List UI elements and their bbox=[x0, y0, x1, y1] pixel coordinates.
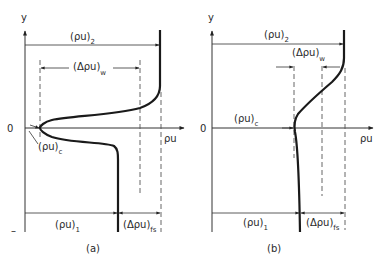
panel-a: y ρu 0 – (ρu)2 (Δρu)w (ρu)c (ρu)1 (Δρu)f… bbox=[7, 12, 184, 254]
rho-u-c-label-a: (ρu)c bbox=[38, 141, 63, 156]
x-axis-label-b: ρu bbox=[360, 133, 373, 144]
delta-rho-u-fs-label-a: (Δρu)fs bbox=[123, 219, 157, 234]
caption-b: (b) bbox=[267, 243, 281, 254]
origin-label-b: 0 bbox=[200, 123, 206, 134]
rho-u-1-label-b: (ρu)1 bbox=[243, 217, 268, 232]
bottom-tick-a: – bbox=[11, 225, 16, 236]
caption-a: (a) bbox=[86, 243, 100, 254]
rho-u-1-label-a: (ρu)1 bbox=[55, 219, 80, 234]
x-axis-label-a: ρu bbox=[164, 133, 177, 144]
delta-rho-u-fs-label-b: (Δρu)fs bbox=[306, 217, 340, 232]
origin-label-a: 0 bbox=[7, 123, 13, 134]
rho-u-c-label-b: (ρu)c bbox=[234, 113, 259, 128]
rho-u-c-leader-a bbox=[29, 131, 38, 144]
rho-u-2-label-b: (ρu)2 bbox=[264, 29, 289, 44]
delta-rho-u-w-label-b: (Δρu)w bbox=[292, 47, 325, 63]
y-axis-label-b: y bbox=[208, 12, 214, 23]
delta-rho-u-w-label-a: (Δρu)w bbox=[73, 61, 106, 77]
rho-u-2-label-a: (ρu)2 bbox=[70, 31, 95, 46]
y-axis-label-a: y bbox=[21, 12, 27, 23]
wake-profile-diagram: y ρu 0 – (ρu)2 (Δρu)w (ρu)c (ρu)1 (Δρu)f… bbox=[0, 0, 383, 262]
panel-b: y ρu 0 (ρu)2 (Δρu)w (ρu)c (ρu)1 (Δρu)fs … bbox=[200, 12, 373, 254]
